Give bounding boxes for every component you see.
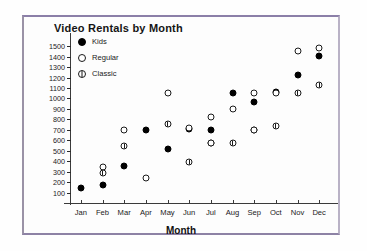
y-tick	[67, 130, 71, 131]
data-point	[164, 90, 171, 97]
y-tick-label: 200	[37, 178, 65, 187]
x-tick	[298, 200, 299, 204]
x-tick	[146, 200, 147, 204]
x-tick	[211, 200, 212, 204]
x-tick	[276, 200, 277, 204]
data-point	[294, 48, 301, 55]
y-tick-label: 100	[37, 188, 65, 197]
data-point	[164, 145, 171, 152]
data-point	[272, 90, 279, 97]
data-point	[121, 126, 128, 133]
data-point	[99, 181, 106, 188]
y-tick-label: 1200	[37, 73, 65, 82]
open-circle-icon	[78, 54, 86, 62]
data-point	[99, 169, 106, 176]
y-tick-label: 300	[37, 167, 65, 176]
y-tick	[67, 119, 71, 120]
y-tick-label: 600	[37, 136, 65, 145]
legend-label: Regular	[92, 53, 119, 62]
data-point	[186, 125, 193, 132]
y-tick-label: 1500	[37, 42, 65, 51]
data-point	[251, 90, 258, 97]
plot-area: 1002003004005006007008009001000110012001…	[24, 17, 338, 233]
filled-circle-icon	[78, 38, 86, 46]
x-tick	[319, 200, 320, 204]
data-point	[164, 121, 171, 128]
data-point	[207, 113, 214, 120]
data-point	[229, 105, 236, 112]
data-point	[272, 122, 279, 129]
data-point	[121, 143, 128, 150]
y-tick	[67, 193, 71, 194]
legend-item-classic[interactable]: Classic	[78, 69, 116, 78]
y-tick	[67, 182, 71, 183]
y-tick	[67, 109, 71, 110]
chart-canvas: Video Rentals by Month 10020030040050060…	[24, 17, 338, 233]
data-point	[207, 126, 214, 133]
y-tick	[67, 88, 71, 89]
legend-label: Classic	[92, 69, 116, 78]
data-point	[229, 90, 236, 97]
y-tick-label: 400	[37, 157, 65, 166]
legend-item-kids[interactable]: Kids	[78, 37, 107, 46]
y-tick-label: 1400	[37, 52, 65, 61]
circle-with-bar-icon	[78, 70, 86, 78]
legend-label: Kids	[92, 37, 107, 46]
screenshot-root: Video Rentals by Month 10020030040050060…	[0, 0, 367, 251]
data-point	[207, 140, 214, 147]
x-tick	[189, 200, 190, 204]
data-point	[121, 163, 128, 170]
y-tick-label: 1100	[37, 84, 65, 93]
y-tick	[67, 57, 71, 58]
legend-item-regular[interactable]: Regular	[78, 53, 119, 62]
x-tick	[168, 200, 169, 204]
x-tick-label: Dec	[306, 208, 332, 217]
x-tick	[81, 200, 82, 204]
y-tick-label: 700	[37, 125, 65, 134]
y-tick-label: 1300	[37, 63, 65, 72]
data-point	[251, 98, 258, 105]
y-tick	[67, 78, 71, 79]
data-point	[316, 81, 323, 88]
chart-frame: Video Rentals by Month 10020030040050060…	[22, 15, 340, 235]
x-tick	[124, 200, 125, 204]
x-tick	[254, 200, 255, 204]
x-tick	[233, 200, 234, 204]
y-tick	[67, 161, 71, 162]
y-tick-label: 900	[37, 104, 65, 113]
y-tick	[67, 67, 71, 68]
data-point	[142, 175, 149, 182]
y-tick-label: 500	[37, 146, 65, 155]
data-point	[294, 72, 301, 79]
data-point	[251, 127, 258, 134]
data-point	[142, 126, 149, 133]
y-tick	[67, 98, 71, 99]
x-axis-title: Month	[24, 225, 338, 236]
y-tick	[67, 172, 71, 173]
y-tick	[67, 151, 71, 152]
y-tick	[67, 140, 71, 141]
data-point	[186, 158, 193, 165]
y-tick	[67, 46, 71, 47]
data-point	[77, 184, 84, 191]
data-point	[294, 90, 301, 97]
y-tick-label: 800	[37, 115, 65, 124]
data-point	[316, 45, 323, 52]
x-tick	[103, 200, 104, 204]
data-point	[229, 140, 236, 147]
y-tick-label: 1000	[37, 94, 65, 103]
data-point	[316, 52, 323, 59]
